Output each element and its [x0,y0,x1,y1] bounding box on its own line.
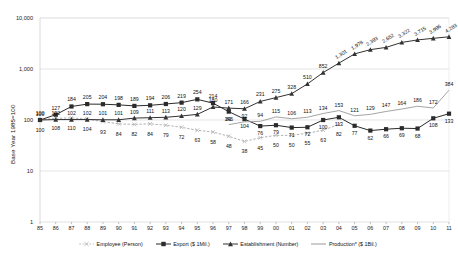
data-label: 134 [319,105,328,111]
legend-item-establishment[interactable]: Establishment (Number) [223,240,299,248]
data-label: 384 [445,81,454,87]
legend-label-production: Production* ($ 1Bil.) [329,241,377,247]
data-label: 110 [67,125,75,131]
legend-marker-production-icon [311,240,326,248]
data-label: 129 [193,105,202,111]
x-axis-tick: 98 [237,225,253,232]
data-label: 328 [287,84,296,90]
series-2 [38,34,452,122]
x-axis-tick: 10 [425,225,441,232]
data-label: 852 [319,63,328,69]
data-label: 133 [445,118,454,124]
x-axis-tick: 07 [378,225,394,232]
data-label: 104 [240,123,249,129]
data-label: 63 [320,137,326,143]
chart-legend: Employee (Person) Export ($ 1Mil.) Estab… [0,236,456,252]
data-label: 206 [162,94,171,100]
x-axis-tick: 11 [441,225,457,232]
data-label: 71 [289,132,295,138]
data-label: 186 [413,97,422,103]
data-label: 82 [336,131,342,137]
data-label: 79 [273,129,279,135]
x-axis-tick: 04 [331,225,347,232]
data-label: 55 [305,140,311,146]
x-axis-tick: 00 [268,225,284,232]
data-label: 189 [130,96,139,102]
data-label: 113 [162,108,170,114]
y-axis-tick: 100 [3,117,33,123]
data-label: 48 [226,143,232,149]
x-axis-tick: 95 [189,225,205,232]
data-label: 205 [83,94,92,100]
data-label: 219 [177,93,186,99]
x-axis-tick: 86 [48,225,64,232]
legend-label-establishment: Establishment (Number) [240,241,298,247]
legend-item-export[interactable]: Export ($ 1Mil.) [156,240,210,248]
data-label: 82 [131,131,137,137]
y-axis-tick: 10 [3,168,33,174]
legend-marker-establishment-icon [223,240,238,248]
data-label: 108 [51,125,60,131]
data-label: 275 [272,88,281,94]
data-label: 81 [226,116,232,122]
data-label: 79 [163,132,169,138]
x-axis-tick: 90 [111,225,127,232]
x-axis-tick: 08 [394,225,410,232]
x-axis-tick: 96 [205,225,221,232]
data-label: 171 [224,99,233,105]
data-label: 69 [399,132,405,138]
legend-item-employee[interactable]: Employee (Person) [79,240,143,248]
data-label: 94 [257,112,263,118]
legend-item-production[interactable]: Production* ($ 1Bil.) [311,240,376,248]
y-axis-tick: 1,000 [3,66,33,72]
data-label: 164 [397,100,406,106]
data-label: 63 [194,137,200,143]
x-axis-tick: 02 [299,225,315,232]
x-axis-tick: 88 [79,225,95,232]
legend-marker-export-icon [156,240,171,248]
data-label: 93 [100,129,106,135]
data-label: 166 [240,99,249,105]
x-axis-tick: 94 [174,225,190,232]
data-label: 100 [36,111,45,117]
data-label: 50 [289,142,295,148]
legend-marker-employee-icon [79,240,94,248]
legend-label-export: Export ($ 1Mil.) [173,241,210,247]
data-label: 38 [242,148,248,154]
data-label: 84 [116,131,122,137]
x-axis-tick: 09 [410,225,426,232]
data-label: 111 [146,108,154,114]
y-axis-tick: 1 [3,219,33,225]
data-label: 66 [383,133,389,139]
data-label: 77 [352,130,358,136]
data-label: 172 [429,99,438,105]
data-label: 58 [210,139,216,145]
data-label: 108 [429,122,438,128]
data-label: 254 [193,89,202,95]
data-label: 109 [130,109,139,115]
x-axis-tick: 85 [32,225,48,232]
data-label: 153 [335,102,344,108]
x-axis-tick: 87 [63,225,79,232]
x-axis-tick: 92 [142,225,158,232]
data-label: 45 [257,145,263,151]
data-label: 62 [367,135,373,141]
data-label: 76 [257,130,263,136]
data-label: 102 [67,110,76,116]
data-label: 72 [179,134,185,140]
data-label: 101 [99,110,108,116]
data-label: 68 [415,133,421,139]
x-axis-tick: 93 [158,225,174,232]
data-label: 198 [114,95,123,101]
data-label: 115 [272,108,280,114]
x-axis-tick: 03 [315,225,331,232]
data-label: 50 [273,142,279,148]
data-label: 180 [209,97,218,103]
data-label: 102 [83,110,92,116]
data-label: 120 [177,106,186,112]
data-label: 510 [303,74,312,80]
x-axis-tick: 99 [252,225,268,232]
x-axis-tick: 05 [347,225,363,232]
data-label: 84 [147,131,153,137]
